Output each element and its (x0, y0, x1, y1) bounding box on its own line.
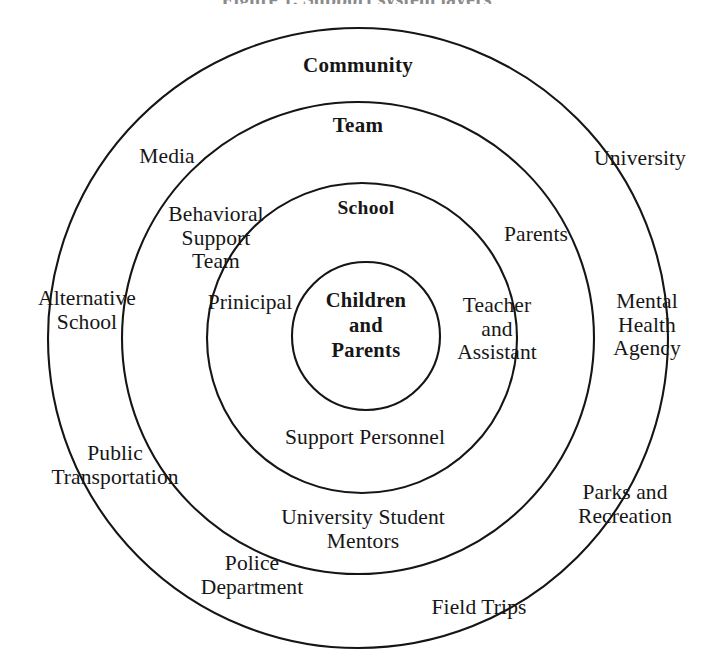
ring-title-core: Children and Parents (326, 288, 407, 363)
member-police-department: Police Department (201, 552, 304, 599)
ring-title-school: School (337, 197, 394, 219)
member-alternative-school: Alternative School (38, 287, 136, 334)
member-behavioral-support-team: Behavioral Support Team (168, 203, 263, 274)
ring-title-team: Team (333, 114, 384, 138)
member-mental-health-agency: Mental Health Agency (613, 290, 680, 361)
member-parks-and-recreation: Parks and Recreation (578, 481, 672, 528)
member-public-transportation: Public Transportation (51, 442, 178, 489)
member-teacher-and-assistant: Teacher and Assistant (457, 294, 537, 365)
member-media: Media (139, 144, 194, 169)
member-university: University (594, 146, 686, 171)
member-university-student-mentors: University Student Mentors (281, 506, 445, 553)
ring-title-community: Community (303, 54, 413, 78)
member-parents: Parents (504, 222, 568, 247)
member-prinicipal: Prinicipal (208, 290, 293, 315)
member-support-personnel: Support Personnel (285, 425, 445, 450)
concentric-support-system-diagram: Figure 1. Support system layers Communit… (0, 0, 713, 660)
member-field-trips: Field Trips (432, 595, 527, 620)
